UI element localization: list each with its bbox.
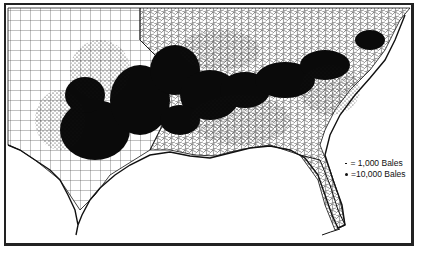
legend-item-10000-bales: =10,000 Bales — [345, 169, 406, 180]
legend-label: = 1,000 Bales — [351, 158, 403, 169]
dot-density-map — [0, 0, 421, 253]
large-dot-icon — [345, 173, 348, 176]
map-legend: = 1,000 Bales =10,000 Bales — [345, 158, 406, 180]
florida-keys — [322, 229, 340, 235]
small-dot-icon — [345, 163, 347, 165]
legend-item-1000-bales: = 1,000 Bales — [345, 158, 406, 169]
legend-label: =10,000 Bales — [351, 169, 406, 180]
